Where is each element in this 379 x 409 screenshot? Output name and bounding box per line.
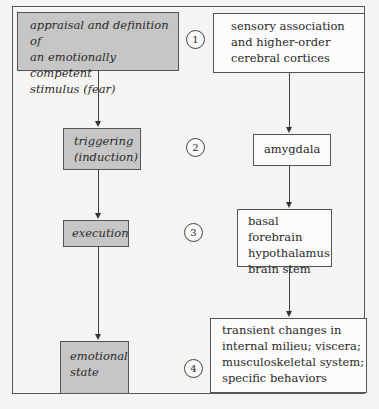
- connector-2-3-left: [98, 170, 99, 214]
- sensory-box: sensory association and higher-order cer…: [213, 13, 365, 73]
- connector-3-4-left: [98, 247, 99, 335]
- arrow-down-icon: [95, 121, 101, 127]
- basal-box: basal forebrain hypothalamus brain stem: [237, 209, 332, 267]
- emotional-state-text: emotional state: [70, 348, 128, 380]
- step-4-badge: 4: [184, 359, 203, 378]
- connector-1-2-right: [289, 73, 290, 128]
- step-3-badge: 3: [184, 223, 203, 242]
- execution-text: execution: [72, 225, 128, 241]
- step-2-badge: 2: [186, 138, 205, 157]
- arrow-down-icon: [95, 334, 101, 340]
- arrow-down-icon: [286, 202, 292, 208]
- transient-box: transient changes in internal milieu; vi…: [210, 318, 367, 393]
- emotional-state-box: emotional state: [60, 341, 129, 394]
- amygdala-box: amygdala: [253, 134, 331, 166]
- connector-1-2-left: [98, 71, 99, 122]
- execution-box: execution: [63, 220, 129, 247]
- step-1-badge: 1: [186, 30, 205, 49]
- connector-3-4-right: [289, 267, 290, 312]
- connector-2-3-right: [289, 166, 290, 203]
- arrow-down-icon: [286, 127, 292, 133]
- appraisal-text: appraisal and definition of an emotional…: [30, 17, 178, 97]
- appraisal-box: appraisal and definition of an emotional…: [17, 12, 179, 71]
- triggering-box: triggering (induction): [63, 128, 141, 170]
- amygdala-text: amygdala: [264, 141, 330, 157]
- arrow-down-icon: [286, 311, 292, 317]
- triggering-text: triggering (induction): [74, 133, 140, 165]
- sensory-text: sensory association and higher-order cer…: [231, 18, 364, 66]
- arrow-down-icon: [95, 213, 101, 219]
- transient-text: transient changes in internal milieu; vi…: [222, 322, 366, 386]
